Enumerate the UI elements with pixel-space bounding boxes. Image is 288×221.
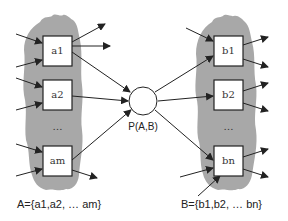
set-b-caption: B={b1,b2, … bn} — [181, 198, 262, 210]
node-b2: b2 — [214, 80, 243, 110]
node-a2: a2 — [43, 80, 72, 110]
node-b2-label: b2 — [222, 89, 235, 100]
set-a-ellipsis: … — [53, 121, 63, 132]
set-b-ellipsis: … — [224, 121, 234, 132]
set-a-caption: A={a1,a2, … am} — [17, 198, 101, 210]
joint-node-circle — [129, 87, 157, 115]
node-bn: bn — [214, 146, 243, 176]
joint-node-label: P(A,B) — [128, 121, 157, 132]
node-a1-label: a1 — [51, 45, 63, 56]
diagram-canvas: a1 a2 … am b1 b2 … bn P(A,B) A={a1,a2, …… — [0, 0, 288, 221]
node-am: am — [43, 146, 72, 176]
node-a2-label: a2 — [51, 89, 63, 100]
node-a1: a1 — [43, 36, 72, 66]
node-b1: b1 — [214, 36, 243, 66]
node-am-label: am — [50, 155, 66, 166]
node-b1-label: b1 — [222, 45, 235, 56]
node-bn-label: bn — [222, 155, 235, 166]
